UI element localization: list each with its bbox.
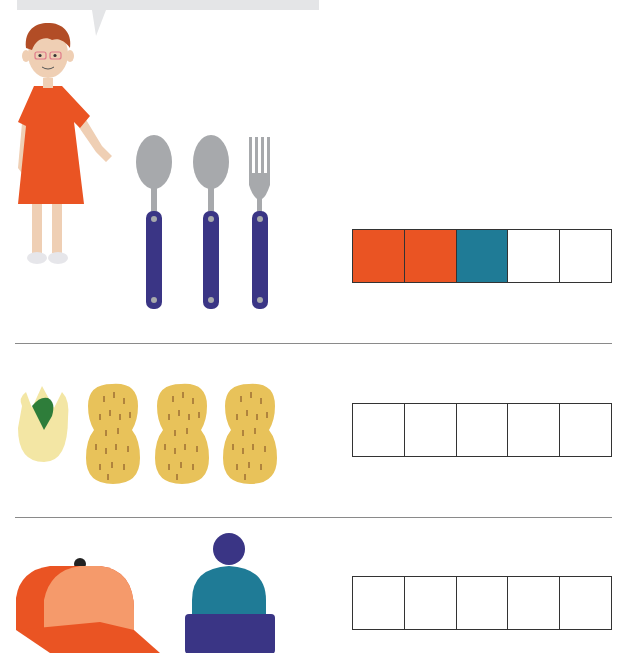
pistachio-icon <box>18 386 68 462</box>
count-box[interactable]: empty <box>508 230 560 282</box>
row-divider <box>15 343 612 344</box>
child-character-icon <box>10 18 120 268</box>
speech-bubble <box>17 0 319 10</box>
count-box[interactable]: empty <box>457 577 509 629</box>
peanut-icon <box>223 384 277 484</box>
count-box[interactable]: empty <box>405 404 457 456</box>
baseball-cap-icon <box>16 558 160 653</box>
count-boxes-row-2: empty empty empty empty empty <box>352 403 612 457</box>
spoon-icon <box>193 135 229 309</box>
peanut-icon <box>86 384 140 484</box>
count-box[interactable]: empty <box>508 404 560 456</box>
hats-group <box>10 530 290 653</box>
count-box[interactable]: empty <box>457 404 509 456</box>
count-box[interactable]: empty <box>405 577 457 629</box>
cutlery-group <box>130 135 285 315</box>
count-box[interactable]: empty <box>353 577 405 629</box>
count-box[interactable]: orange <box>405 230 457 282</box>
count-box[interactable]: empty <box>560 404 611 456</box>
count-box[interactable]: teal <box>457 230 509 282</box>
count-boxes-row-3: empty empty empty empty empty <box>352 576 612 630</box>
nuts-group <box>10 378 280 488</box>
count-box[interactable]: orange <box>353 230 405 282</box>
fork-icon <box>249 137 270 309</box>
count-box[interactable]: empty <box>353 404 405 456</box>
peanut-icon <box>155 384 209 484</box>
row-divider <box>15 517 612 518</box>
count-box[interactable]: empty <box>560 577 611 629</box>
count-box[interactable]: empty <box>560 230 611 282</box>
spoon-icon <box>136 135 172 309</box>
count-boxes-row-1: orange orange teal empty empty <box>352 229 612 283</box>
count-box[interactable]: empty <box>508 577 560 629</box>
beanie-icon <box>185 533 275 653</box>
